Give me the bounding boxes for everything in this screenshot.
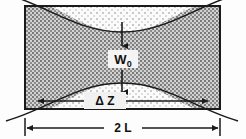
cavity-length-label: 2 L <box>114 121 131 135</box>
rayleigh-range-label: Δ Z <box>95 94 114 108</box>
cavity-length-dimension: 2 L <box>25 118 220 136</box>
figure-canvas: W0 Δ Z 2 L <box>0 0 246 139</box>
beam-waist-diagram: W0 Δ Z 2 L <box>0 0 246 139</box>
waist-subscript: 0 <box>127 59 132 69</box>
